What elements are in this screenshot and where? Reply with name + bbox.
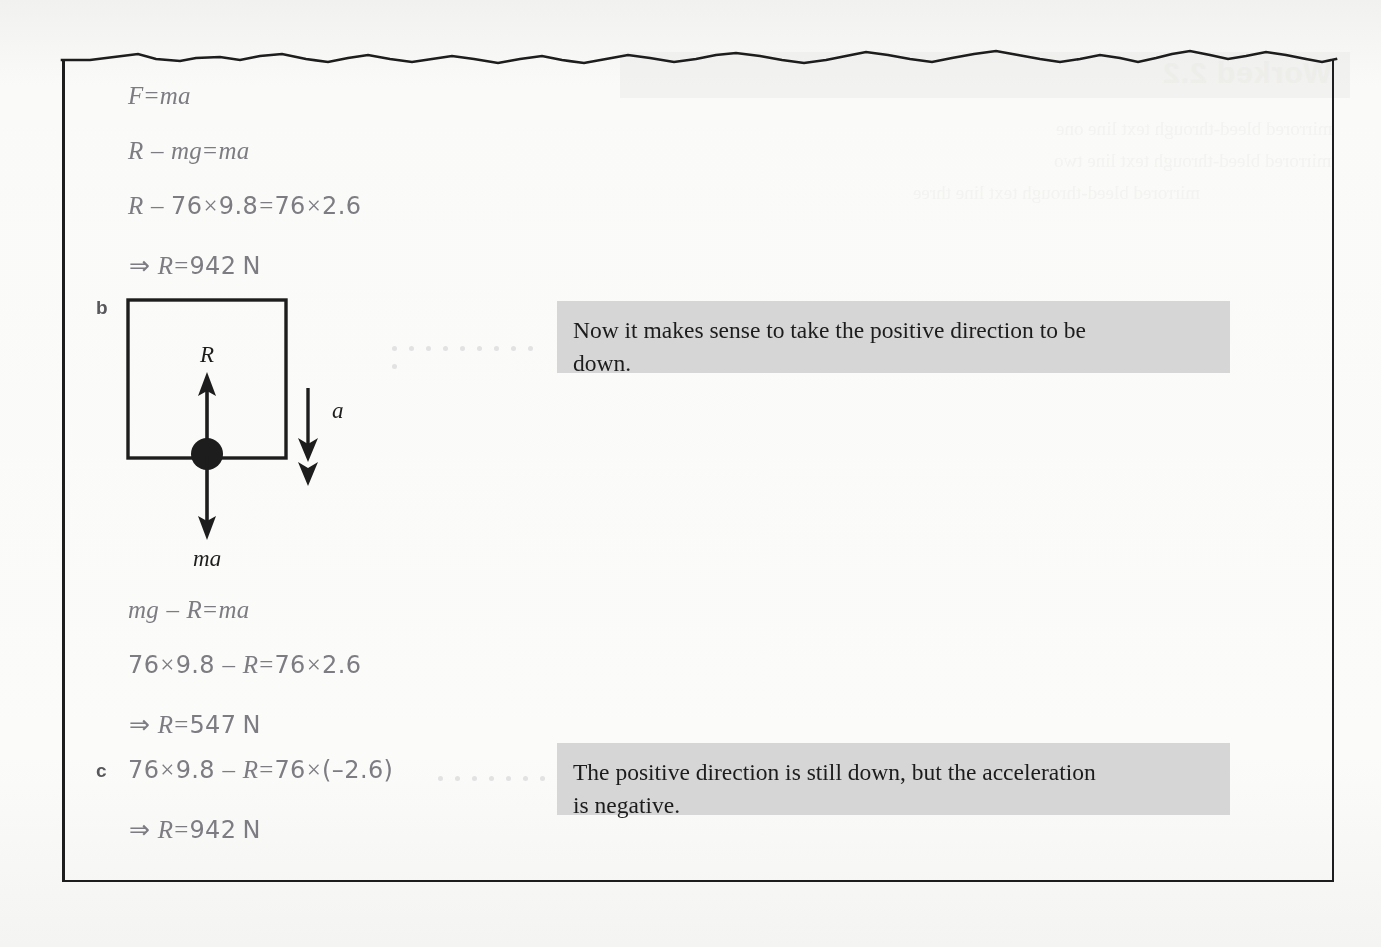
torn-top-edge-icon [60,28,1338,74]
equation-2: R – mg=ma [128,137,249,165]
callout-b-line-2: down. [573,347,1214,380]
frame-edge-left [62,60,65,882]
frame-edge-right [1332,60,1335,882]
equation-1: F=ma [128,82,191,110]
equation-8: 76×9.8 – R=76×(–2.6) [128,756,393,784]
equation-6: 76×9.8 – R=76×2.6 [128,651,361,679]
part-label-b: b [96,297,108,319]
callout-acceleration-negative: The positive direction is still down, bu… [557,743,1230,815]
callout-c-line-2: is negative. [573,789,1214,822]
part-label-c: c [96,760,107,782]
equation-4: ⇒ R=942N [128,251,261,280]
weight-label-mg: mg [193,546,221,566]
equation-5: mg – R=ma [128,596,249,624]
callout-c-line-1: The positive direction is still down, bu… [573,756,1214,789]
equation-7: ⇒ R=547N [128,710,261,739]
callout-b-line-1: Now it makes sense to take the positive … [573,314,1214,347]
acceleration-arrow-head-2 [298,462,318,486]
leader-line-c [438,768,560,778]
equation-9: ⇒ R=942N [128,815,261,844]
reaction-label-R: R [199,342,214,367]
equation-3: R – 76×9.8=76×2.6 [128,192,361,220]
callout-positive-direction-down: Now it makes sense to take the positive … [557,301,1230,373]
force-diagram: R mg a [120,296,400,566]
frame-edge-bottom [62,880,1334,883]
leader-line-b [392,338,558,348]
page-sheet: Worked 2.2 mirrored bleed-through text l… [0,0,1381,947]
acceleration-label-a: a [332,398,344,423]
